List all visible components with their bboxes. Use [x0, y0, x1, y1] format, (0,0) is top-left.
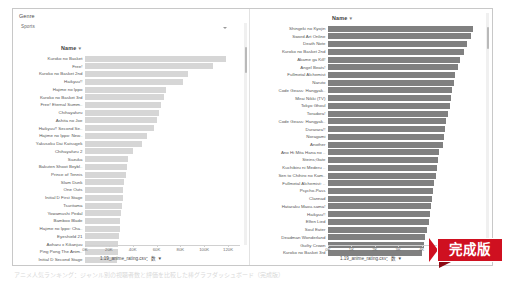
bar-row[interactable]: Tsuritama — [19, 202, 240, 209]
bar-row[interactable]: Chihayafuru — [19, 109, 240, 116]
bar[interactable] — [85, 117, 157, 123]
bar-row[interactable]: Sword Art Online — [252, 33, 480, 40]
bar[interactable] — [328, 188, 433, 194]
bar-row[interactable]: Fullmetal Alchemist — [252, 71, 480, 78]
bar[interactable] — [328, 87, 452, 93]
bar-row[interactable]: Sen to Chihiro no Kam.. — [252, 172, 480, 179]
bar-row[interactable]: Kuroko no Basket — [19, 55, 240, 62]
bar-row[interactable]: Yakusoku Dai Katsugek — [19, 140, 240, 147]
bar-row[interactable]: Shingeki no Kyojin — [252, 25, 480, 32]
bar-row[interactable]: Hajime no Ippo: Cha.. — [19, 225, 240, 232]
right-pane-scrollbar[interactable] — [486, 13, 489, 245]
bar[interactable] — [328, 80, 454, 86]
bar-row[interactable]: Elfen Lied — [252, 218, 480, 225]
bar[interactable] — [328, 203, 431, 209]
bar[interactable] — [85, 125, 154, 131]
bar-row[interactable]: Bakuten Shoot Beybl.. — [19, 163, 240, 170]
bar[interactable] — [85, 71, 188, 77]
bar[interactable] — [328, 142, 443, 148]
bar[interactable] — [328, 49, 464, 55]
bar[interactable] — [328, 165, 437, 171]
bar-row[interactable]: Eyeshield 21 — [19, 233, 240, 240]
bar[interactable] — [85, 195, 123, 201]
bar[interactable] — [328, 157, 438, 163]
sort-descending-icon[interactable]: ▼ — [77, 46, 82, 51]
bar[interactable] — [85, 87, 166, 93]
bar-row[interactable]: Yowamushi Pedal — [19, 210, 240, 217]
bar-row[interactable]: Clannad — [252, 195, 480, 202]
bar-row[interactable]: Prince of Tennis — [19, 171, 240, 178]
bar[interactable] — [85, 179, 124, 185]
bar-row[interactable]: Code Geass: Hangyak.. — [252, 118, 480, 125]
chevron-down-icon[interactable] — [223, 27, 227, 29]
bar-row[interactable]: Initial D First Stage — [19, 194, 240, 201]
genre-filter-dropdown[interactable]: Sports — [19, 23, 241, 32]
bar[interactable] — [85, 187, 123, 193]
bar-row[interactable]: Hataraku Maou-sama! — [252, 203, 480, 210]
bar[interactable] — [328, 95, 451, 101]
bar[interactable] — [85, 172, 126, 178]
bar[interactable] — [328, 64, 458, 70]
bar[interactable] — [328, 149, 439, 155]
bar-row[interactable]: Noragami — [252, 133, 480, 140]
bar[interactable] — [328, 134, 444, 140]
sort-descending-icon[interactable]: ▼ — [348, 16, 353, 21]
left-pane-scrollbar[interactable] — [244, 23, 247, 245]
bar[interactable] — [328, 173, 436, 179]
bar[interactable] — [328, 219, 429, 225]
bar-row[interactable]: Another — [252, 141, 480, 148]
bar[interactable] — [328, 227, 427, 233]
bar-row[interactable]: Kuchibiru ni Mederu .. — [252, 164, 480, 171]
bar[interactable] — [328, 41, 467, 47]
bar-row[interactable]: Haikyuu!! Second Se.. — [19, 125, 240, 132]
bar[interactable] — [85, 141, 142, 147]
bar[interactable] — [328, 180, 434, 186]
right-chart-column-header[interactable]: Name▼ — [332, 15, 353, 21]
bar-row[interactable]: Bamboo Blade — [19, 217, 240, 224]
bar[interactable] — [85, 133, 147, 139]
bar[interactable] — [328, 57, 460, 63]
bar[interactable] — [328, 111, 448, 117]
bar-row[interactable]: Ashita no Joe — [19, 117, 240, 124]
bar-row[interactable]: Free! — [19, 63, 240, 70]
bar-row[interactable]: Naruto — [252, 79, 480, 86]
bar-row[interactable]: Tokyo Ghoul — [252, 102, 480, 109]
bar[interactable] — [85, 203, 122, 209]
bar-row[interactable]: Psycho-Pass — [252, 187, 480, 194]
bar-row[interactable]: Hajime no Ippo — [19, 86, 240, 93]
bar[interactable] — [85, 218, 120, 224]
bar-row[interactable]: Kuroko no Basket 3rd — [19, 94, 240, 101]
bar-row[interactable]: Akame ga Kill! — [252, 56, 480, 63]
bar-row[interactable]: Mirai Nikki (TV) — [252, 95, 480, 102]
bar[interactable] — [328, 118, 446, 124]
bar-row[interactable]: Free! Eternal Summ.. — [19, 101, 240, 108]
bar[interactable] — [328, 234, 425, 240]
bar-row[interactable]: Soul Eater — [252, 226, 480, 233]
bar-row[interactable]: Suzuka — [19, 156, 240, 163]
bar-row[interactable]: Code Geass: Hangyak.. — [252, 87, 480, 94]
bar-row[interactable]: Angel Beats! — [252, 64, 480, 71]
bar-row[interactable]: Death Note — [252, 40, 480, 47]
left-chart-column-header[interactable]: Name▼ — [61, 45, 82, 51]
bar-row[interactable]: Haikyuu!! — [19, 78, 240, 85]
bar[interactable] — [328, 211, 430, 217]
bar[interactable] — [85, 79, 183, 85]
right-scrollbar-thumb[interactable] — [487, 27, 489, 49]
bar-row[interactable]: Ano Hi Mita Hana no .. — [252, 149, 480, 156]
bar[interactable] — [85, 148, 133, 154]
bar-row[interactable]: Haikyuu!! — [252, 211, 480, 218]
bar-row[interactable]: One Outs — [19, 186, 240, 193]
bar-row[interactable]: Fullmetal Alchemist: .. — [252, 180, 480, 187]
bar-row[interactable]: Kuroko no Basket 2nd — [252, 48, 480, 55]
bar[interactable] — [328, 103, 450, 109]
bar-row[interactable]: Slam Dunk — [19, 179, 240, 186]
bar[interactable] — [85, 156, 128, 162]
bar-row[interactable]: Toradora! — [252, 110, 480, 117]
left-scrollbar-thumb[interactable] — [245, 47, 247, 73]
bar[interactable] — [328, 72, 455, 78]
bar[interactable] — [85, 233, 119, 239]
bar[interactable] — [328, 196, 432, 202]
bar-row[interactable]: Chihayafuru 2 — [19, 148, 240, 155]
bar[interactable] — [85, 63, 213, 69]
bar-row[interactable]: Steins;Gate — [252, 156, 480, 163]
